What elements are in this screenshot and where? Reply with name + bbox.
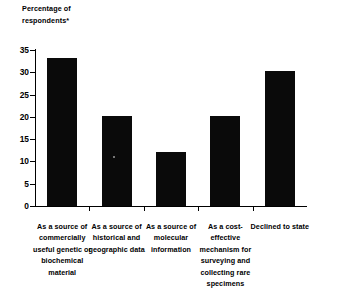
scan-artifact-speck xyxy=(113,156,115,158)
y-tick-label: 20 xyxy=(0,113,29,121)
y-tick-mark xyxy=(30,117,35,118)
y-tick-mark xyxy=(30,184,35,185)
y-tick-mark xyxy=(30,161,35,162)
y-tick-label: 35 xyxy=(0,46,29,54)
y-tick-mark xyxy=(30,72,35,73)
x-category-label: As a source of historical and geographic… xyxy=(86,221,146,255)
y-tick-label: 5 xyxy=(0,180,29,188)
y-axis-line xyxy=(35,49,36,207)
x-category-label: As a source of commercially useful genet… xyxy=(32,221,92,278)
y-tick-mark xyxy=(30,139,35,140)
x-axis-line xyxy=(35,206,307,207)
x-category-label: Declined to state xyxy=(250,221,310,232)
x-tick-mark xyxy=(144,206,145,211)
bar xyxy=(156,152,186,206)
y-tick-mark xyxy=(30,50,35,51)
bar xyxy=(265,71,295,206)
x-tick-mark xyxy=(253,206,254,211)
x-tick-mark xyxy=(89,206,90,211)
bar xyxy=(102,116,132,206)
x-category-label: As a cost- effective mechanism for surve… xyxy=(195,221,255,289)
y-tick-label: 25 xyxy=(0,91,29,99)
x-category-label: As a source of molecular information xyxy=(141,221,201,255)
y-tick-label: 0 xyxy=(0,202,29,210)
y-tick-mark xyxy=(30,95,35,96)
y-tick-label: 30 xyxy=(0,68,29,76)
x-tick-mark xyxy=(198,206,199,211)
y-tick-label: 10 xyxy=(0,157,29,165)
y-tick-mark xyxy=(30,206,35,207)
bar xyxy=(47,58,77,206)
y-tick-label: 15 xyxy=(0,135,29,143)
bar xyxy=(210,116,240,206)
